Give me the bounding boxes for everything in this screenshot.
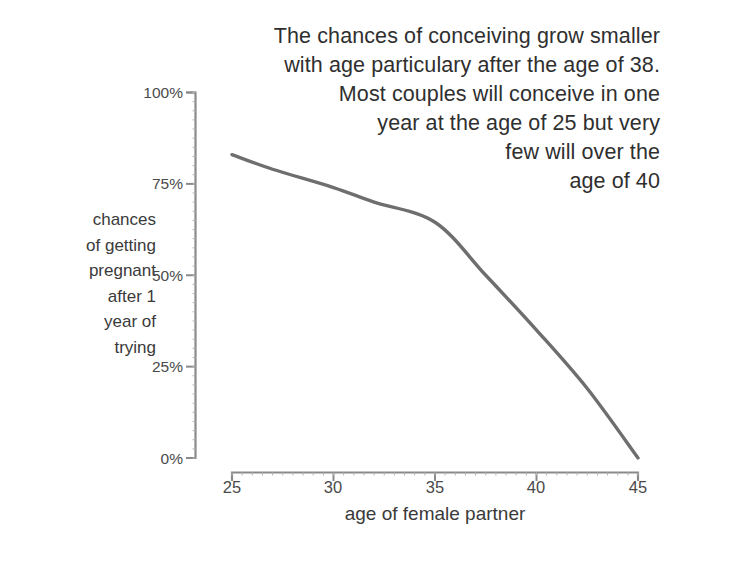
chart-figure: The chances of conceiving grow smaller w… xyxy=(0,0,729,562)
y-axis xyxy=(186,93,196,459)
fertility-curve xyxy=(232,155,638,458)
x-axis xyxy=(232,473,638,482)
